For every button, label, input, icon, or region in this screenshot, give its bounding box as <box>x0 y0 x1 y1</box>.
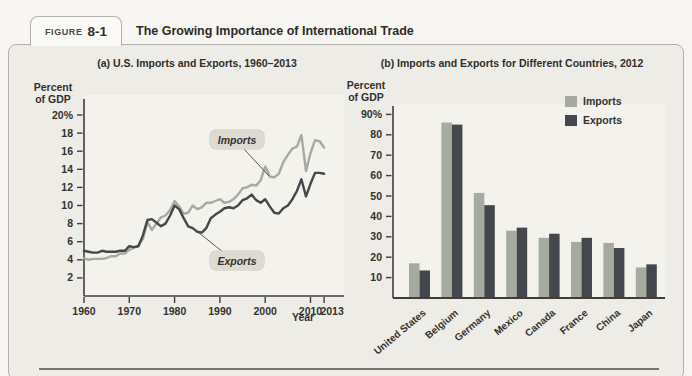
svg-text:12: 12 <box>61 181 73 193</box>
svg-text:10: 10 <box>61 199 73 211</box>
svg-text:70: 70 <box>370 149 382 161</box>
bar-chart-legend: Imports Exports <box>565 95 622 126</box>
svg-text:18: 18 <box>61 127 73 139</box>
svg-text:30: 30 <box>370 230 382 242</box>
exports-callout-label: Exports <box>210 251 264 270</box>
svg-text:4: 4 <box>67 253 73 265</box>
svg-text:20%: 20% <box>52 109 74 121</box>
figure-tab-prefix: FIGURE <box>45 27 83 37</box>
imports-callout-label: Imports <box>210 130 264 149</box>
svg-text:1980: 1980 <box>163 305 187 317</box>
figure-page: FIGURE 8-1 The Growing Importance of Int… <box>0 0 692 376</box>
figure-tab-number: 8-1 <box>88 24 108 39</box>
line-chart-group: 2468101214161820%19601970198019902000201… <box>52 95 344 317</box>
line-chart-y-axis-label: Percent of GDP <box>29 81 77 105</box>
svg-text:2013: 2013 <box>320 305 344 317</box>
line-chart-x-axis-label: Year <box>292 311 314 323</box>
svg-text:China: China <box>594 307 623 334</box>
svg-text:40: 40 <box>370 210 382 222</box>
svg-text:Mexico: Mexico <box>492 307 525 337</box>
svg-text:80: 80 <box>370 128 382 140</box>
svg-text:6: 6 <box>67 235 73 247</box>
svg-text:60: 60 <box>370 169 382 181</box>
svg-text:Japan: Japan <box>625 307 654 334</box>
svg-text:2000: 2000 <box>254 305 278 317</box>
svg-text:2: 2 <box>67 271 73 283</box>
svg-text:50: 50 <box>370 190 382 202</box>
line-chart-title: (a) U.S. Imports and Exports, 1960–2013 <box>37 57 357 69</box>
svg-text:United States: United States <box>372 307 428 357</box>
bar-chart-title: (b) Imports and Exports for Different Co… <box>351 57 673 69</box>
exports-swatch-icon <box>565 115 577 126</box>
legend-exports-label: Exports <box>583 114 622 126</box>
svg-text:Germany: Germany <box>452 307 493 344</box>
bar-chart-y-axis-label: Percent of GDP <box>342 79 390 103</box>
figure-panel: 2468101214161820%19601970198019902000201… <box>8 44 684 376</box>
svg-text:14: 14 <box>61 163 73 175</box>
caption-divider-rule <box>39 368 659 370</box>
svg-text:8: 8 <box>67 217 73 229</box>
bar-chart-group: 102030405060708090%United StatesBelgiumG… <box>361 104 665 357</box>
figure-title: The Growing Importance of International … <box>136 16 414 46</box>
svg-text:1990: 1990 <box>208 305 232 317</box>
legend-item-imports: Imports <box>565 95 622 107</box>
figure-tab: FIGURE 8-1 <box>30 16 122 46</box>
legend-imports-label: Imports <box>583 95 622 107</box>
imports-swatch-icon <box>565 96 577 107</box>
svg-text:20: 20 <box>370 251 382 263</box>
svg-text:90%: 90% <box>361 108 383 120</box>
svg-text:16: 16 <box>61 145 73 157</box>
svg-text:France: France <box>558 307 591 337</box>
svg-text:10: 10 <box>370 271 382 283</box>
svg-text:Canada: Canada <box>523 307 558 339</box>
svg-text:1970: 1970 <box>118 305 142 317</box>
svg-text:1960: 1960 <box>72 305 96 317</box>
legend-item-exports: Exports <box>565 114 622 126</box>
